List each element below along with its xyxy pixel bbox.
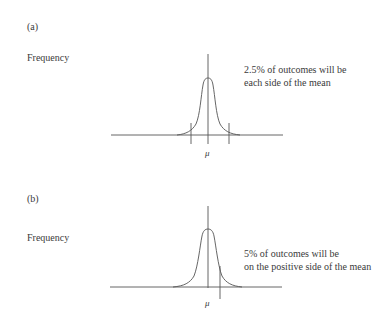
panel-b-normal-curve — [173, 229, 242, 287]
panel-a-normal-curve — [177, 78, 240, 135]
diagram-graphics — [0, 0, 392, 317]
